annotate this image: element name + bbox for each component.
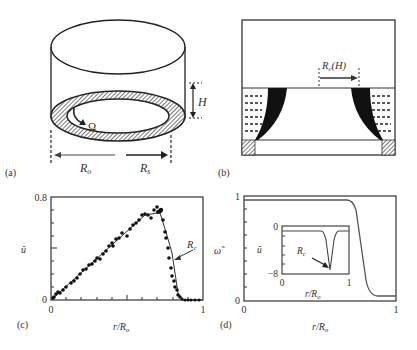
d-xtick-left: 0 (242, 304, 247, 315)
inset-xtick-left: 0 (280, 278, 285, 288)
left-dye-front (255, 88, 287, 140)
figure-canvas: Ω H Ro Rs (a) (0, 0, 417, 350)
c-ylabel: ũ (21, 244, 26, 255)
plot-c-frame (51, 197, 203, 300)
c-rc-label: Rc (186, 239, 197, 252)
ro-label: Ro (79, 161, 91, 176)
c-ytick-bottom: 0 (42, 294, 47, 305)
inset-frame (282, 226, 349, 274)
panel-a-cylinder-diagram: Ω H Ro Rs (a) (5, 20, 208, 179)
omega-label: Ω (88, 120, 96, 132)
cylinder-top-ellipse (51, 20, 185, 74)
c-xtick-left: 0 (49, 304, 54, 315)
panel-b-cross-section: Rc(H) (b) (218, 20, 395, 179)
d-xtick-right: 1 (394, 304, 399, 315)
panel-label-b: (b) (218, 167, 230, 179)
left-hatched-corner (242, 140, 255, 155)
panel-c-velocity-plot: 0.8 0 0 1 ũ r/Ro (c) (17, 192, 206, 334)
height-label: H (197, 95, 208, 109)
panel-label-d: (d) (220, 319, 232, 331)
d-ytick-bottom: 0 (235, 295, 240, 306)
inner-disk (67, 99, 169, 133)
c-ytick-top: 0.8 (35, 192, 48, 203)
inset-xtick-right: 1 (347, 278, 352, 288)
inset-ylabel: ũ (257, 245, 262, 255)
c-data-points (51, 205, 200, 301)
right-hatched-corner (382, 140, 395, 155)
d-ytick-top: 1 (235, 191, 240, 202)
c-xtick-right: 1 (201, 304, 206, 315)
panel-d-angular-velocity-plot: 1 0 0 1 ω̃ r/Ro (d) 0 −8 0 1 ũ r/Ro Rc (214, 191, 399, 334)
panel-label-a: (a) (5, 167, 16, 179)
inset-ytick-top: 0 (273, 222, 278, 232)
inset-xlabel: r/Ro (305, 289, 321, 300)
d-xlabel: r/Ro (312, 321, 329, 334)
panel-label-c: (c) (17, 319, 28, 331)
inset-ytick-bottom: −8 (268, 269, 278, 279)
d-ylabel: ω̃ (214, 245, 225, 256)
rs-label: Rs (139, 161, 150, 176)
c-xlabel: r/Ro (113, 321, 130, 334)
rc-h-label: Rc(H) (321, 60, 347, 73)
